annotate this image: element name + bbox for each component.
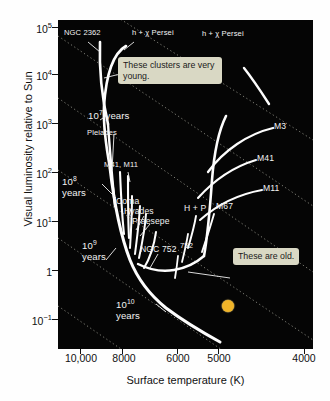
label-m11: M11 — [263, 184, 279, 193]
x-tick-label-5000: 5000 — [207, 353, 230, 364]
x-tick-label-10000: 10,000 — [65, 353, 97, 364]
label-ngc-752: NGC 752 — [140, 245, 177, 254]
label-coma: Coma — [116, 197, 139, 206]
callout-old-clusters: These are old. — [233, 248, 299, 265]
label-pleiades: Pleiades — [87, 129, 117, 137]
label-m41-m11: M41, M11 — [104, 161, 138, 169]
y-tick-label-1e-1: 10−1 — [0, 314, 52, 326]
label-praesepe: Praesepe — [132, 217, 170, 226]
label-h-chi-persei-top: h + χ Persei — [132, 29, 174, 37]
callout-young-clusters: These clusters are very young. — [118, 57, 222, 84]
label-m3: M3 — [274, 122, 286, 131]
label-age-1e9: 109years — [82, 239, 122, 263]
label-h-plus-p: H + P — [184, 204, 206, 213]
hr-diagram-figure: 105 104 103 102 101 1 10−1 Visual lumino… — [0, 0, 330, 401]
cluster-main-sequences — [100, 42, 273, 342]
x-tick-label-8000: 8000 — [112, 353, 135, 364]
x-tick-label-6000: 6000 — [166, 353, 189, 364]
label-m41: M41 — [257, 154, 274, 163]
label-h-chi-persei-right: h + χ Persei — [202, 30, 244, 38]
label-752-short: 752 — [180, 242, 193, 250]
label-ngc-2362: NGC 2362 — [64, 29, 101, 37]
x-tick-label-4000: 4000 — [292, 353, 315, 364]
label-age-1e8: 108years — [62, 175, 102, 199]
label-age-1e7: 107 years — [88, 109, 130, 121]
y-axis-title: Visual luminosity relative to Sun — [22, 29, 34, 269]
sun-marker — [222, 300, 234, 312]
label-m67: M67 — [216, 202, 233, 211]
label-hyades: Hyades — [124, 207, 154, 216]
label-age-1e10: 1010years — [116, 298, 160, 322]
x-axis-title: Surface temperature (K) — [58, 374, 313, 386]
